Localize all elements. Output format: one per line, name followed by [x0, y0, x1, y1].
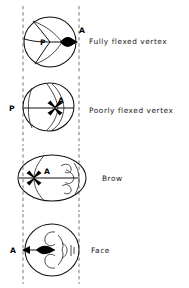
caption-poorly-flexed-vertex: Poorly flexed vertex [89, 106, 174, 115]
caption-face: Face [91, 246, 110, 255]
label-posterior-row1: P [40, 38, 46, 47]
caption-fully-flexed-vertex: Fully flexed vertex [89, 37, 167, 46]
label-anterior-row3: A [44, 167, 50, 176]
label-anterior-row2: A [58, 96, 64, 105]
label-anterior-row4: A [10, 246, 16, 255]
caption-brow: Brow [102, 174, 123, 183]
label-anterior-row1: A [79, 26, 85, 35]
label-posterior-row2: P [9, 104, 15, 113]
fetal-presentation-figure: P A Fully flexed vertex P A Poorly flexe… [0, 0, 189, 288]
